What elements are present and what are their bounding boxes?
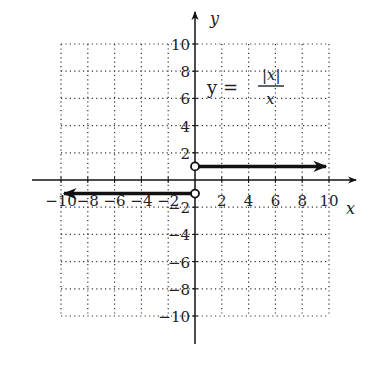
equation-numerator: |x| bbox=[262, 66, 281, 84]
x-tick-label: 6 bbox=[271, 192, 281, 210]
y-tick-label: −2 bbox=[168, 199, 190, 217]
x-axis-label: x bbox=[346, 199, 355, 218]
equation-lhs: y = bbox=[206, 77, 238, 98]
y-tick-label: −4 bbox=[168, 226, 190, 244]
x-tick-label: 4 bbox=[244, 192, 254, 210]
y-tick-label: 2 bbox=[180, 145, 190, 163]
y-tick-label: −8 bbox=[168, 281, 190, 299]
y-tick-label: 6 bbox=[180, 90, 190, 108]
y-tick-label: 10 bbox=[171, 36, 190, 54]
open-circle-endpoint bbox=[191, 162, 199, 170]
y-tick-label: 8 bbox=[180, 63, 190, 81]
axes bbox=[32, 12, 356, 344]
piecewise-function-graph: −10−8−6−4−2246810−10−8−6−4−2246810 x y y… bbox=[0, 0, 380, 375]
x-tick-label: 8 bbox=[297, 192, 307, 210]
equation-denominator: x bbox=[266, 90, 275, 108]
open-circle-endpoint bbox=[191, 190, 199, 198]
x-tick-label: 2 bbox=[217, 192, 227, 210]
y-tick-label: −10 bbox=[158, 308, 190, 326]
tick-labels: −10−8−6−4−2246810−10−8−6−4−2246810 bbox=[45, 36, 338, 326]
y-tick-label: −6 bbox=[168, 254, 190, 272]
y-axis-label: y bbox=[209, 9, 220, 28]
axis-labels: x y bbox=[209, 9, 355, 218]
equation-label: y = |x| x bbox=[206, 66, 284, 108]
x-tick-label: 10 bbox=[319, 192, 338, 210]
y-tick-label: 4 bbox=[180, 118, 190, 136]
